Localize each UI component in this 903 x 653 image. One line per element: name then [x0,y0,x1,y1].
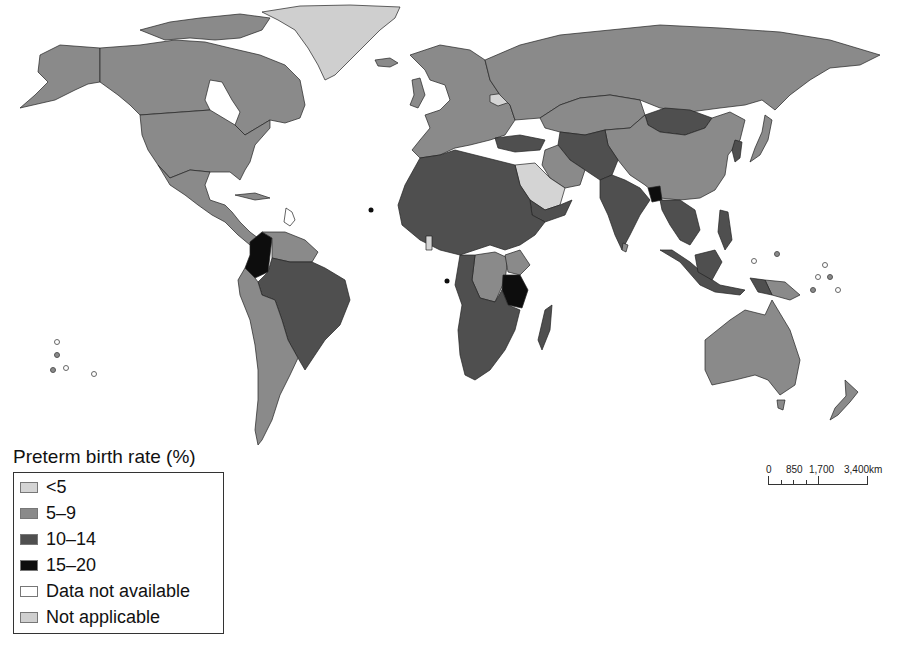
scale-tick [818,476,819,485]
region-southeast-asia [660,200,700,245]
legend-label: 5–9 [46,503,76,524]
island-marker [752,259,757,264]
region-japan [750,115,772,162]
legend-label: 10–14 [46,529,96,550]
legend-title: Preterm birth rate (%) [13,446,196,468]
island-marker [811,288,816,293]
region-lesser-antilles [284,208,295,226]
legend-item-data-not-available: Data not available [20,580,190,602]
world-map [0,0,903,460]
scale-tick [781,480,782,485]
island-marker [55,353,60,358]
legend-swatch [20,534,38,545]
region-ghana [426,236,432,250]
region-iceland [375,58,398,67]
island-marker [816,275,821,280]
legend-item-15-20: 15–20 [20,554,96,576]
region-papua-new-guinea [765,280,800,300]
scale-tick [867,476,868,485]
region-new-zealand [830,380,858,420]
region-uk [410,78,425,108]
region-alaska [20,45,100,108]
legend-item-5-9: 5–9 [20,502,76,524]
region-tasmania [777,400,785,410]
region-philippines [718,210,732,250]
scale-label: 850 [786,464,803,475]
island-marker [828,275,833,280]
region-cuba [235,193,270,200]
scale-bar: 0 850 1,700 3,400km [762,464,892,494]
island-marker [55,340,60,345]
region-russia [485,25,880,120]
scale-tick [806,480,807,485]
island-marker [64,366,69,371]
region-kenya-uganda [505,250,530,275]
legend-swatch [20,482,38,493]
region-india [600,175,650,250]
region-sri-lanka [622,243,628,252]
legend-swatch [20,560,38,571]
island-marker [51,368,56,373]
legend-label: <5 [46,477,67,498]
island-marker [775,252,780,257]
region-australia [705,300,800,395]
island-marker [369,208,374,213]
scale-label: 1,700 [809,464,834,475]
legend-item-10-14: 10–14 [20,528,96,550]
island-marker [836,288,841,293]
region-turkey [495,135,545,152]
legend: <5 5–9 10–14 15–20 Data not available No… [13,472,224,634]
scale-label: 0 [766,464,772,475]
legend-label: Data not available [46,581,190,602]
scale-label: 3,400km [844,464,882,475]
legend-swatch [20,508,38,519]
region-canada-islands [140,14,270,40]
legend-item-not-applicable: Not applicable [20,606,160,628]
island-marker [823,263,828,268]
legend-swatch [20,612,38,623]
region-madagascar [538,305,552,350]
island-marker [445,279,450,284]
legend-label: 15–20 [46,555,96,576]
scale-tick [793,480,794,485]
island-marker [92,372,97,377]
legend-label: Not applicable [46,607,160,628]
region-mexico [158,165,258,245]
legend-swatch [20,586,38,597]
scale-tick [768,476,769,485]
legend-item-lt5: <5 [20,476,67,498]
